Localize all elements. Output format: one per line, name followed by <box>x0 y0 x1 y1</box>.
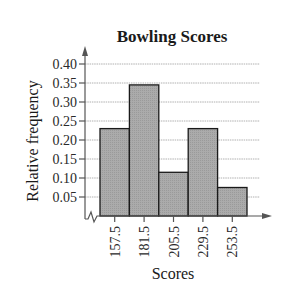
histogram-bar <box>100 129 129 216</box>
x-tick-label: 205.5 <box>167 226 182 258</box>
y-tick-label: 0.10 <box>53 171 78 186</box>
x-axis-arrow-icon <box>262 213 272 219</box>
histogram-bar <box>218 188 247 217</box>
histogram-bar <box>129 85 158 216</box>
chart-title: Bowling Scores <box>117 27 228 46</box>
y-ticks: 0.050.100.150.200.250.300.350.40 <box>53 57 86 205</box>
histogram-chart: Bowling Scores 0.050.100.150.200.250.300… <box>0 0 294 301</box>
x-ticks: 157.5181.5205.5229.5253.5 <box>108 216 241 258</box>
x-tick-label: 181.5 <box>137 226 152 258</box>
y-tick-label: 0.15 <box>53 152 78 167</box>
x-tick-label: 253.5 <box>225 226 240 258</box>
y-tick-label: 0.35 <box>53 76 78 91</box>
x-axis-label: Scores <box>152 265 195 282</box>
histogram-bar <box>188 129 217 216</box>
histogram-bar <box>159 172 188 216</box>
bars <box>100 85 247 216</box>
y-tick-label: 0.25 <box>53 114 78 129</box>
y-axis-label: Relative frequency <box>24 80 42 201</box>
y-tick-label: 0.05 <box>53 190 78 205</box>
y-axis-arrow-icon <box>82 46 88 56</box>
x-tick-label: 229.5 <box>196 226 211 258</box>
y-tick-label: 0.20 <box>53 133 78 148</box>
x-tick-label: 157.5 <box>108 226 123 258</box>
y-tick-label: 0.30 <box>53 95 78 110</box>
y-tick-label: 0.40 <box>53 57 78 72</box>
